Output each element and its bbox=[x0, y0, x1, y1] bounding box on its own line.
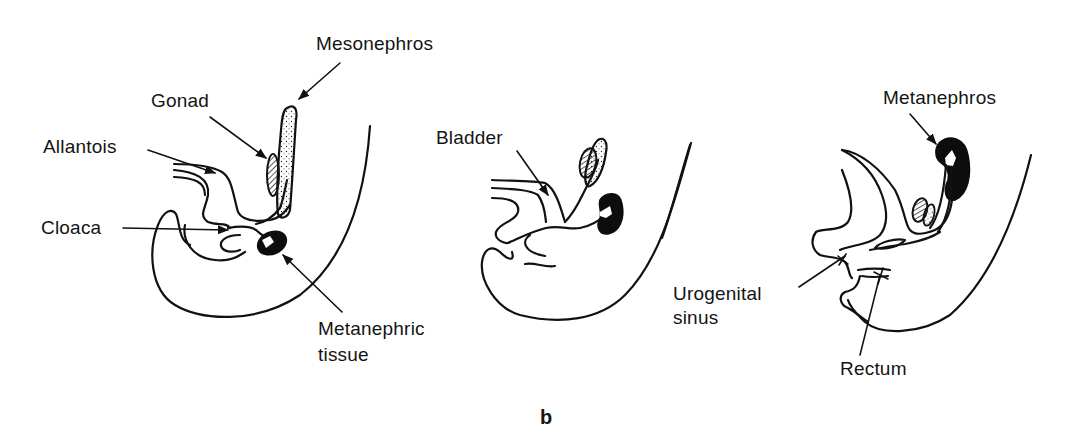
panel-3-rectum-top bbox=[858, 269, 890, 271]
panel-1-cloaca-inner bbox=[221, 235, 240, 252]
mesonephros-pointer bbox=[299, 63, 340, 99]
allantois-pointer bbox=[148, 150, 215, 173]
panel-2-gut-inner-1 bbox=[525, 235, 545, 256]
panel-2-gut bbox=[492, 198, 518, 243]
panel-1-allantois-lower bbox=[174, 177, 205, 195]
panel-1-mesonephros bbox=[277, 107, 296, 218]
panel-1-gonad bbox=[267, 154, 279, 196]
figure-caption: b bbox=[540, 406, 552, 429]
metanephric-tissue-pointer bbox=[283, 255, 342, 312]
label-bladder: Bladder bbox=[436, 127, 503, 149]
gonad-pointer bbox=[210, 117, 266, 158]
panel-3-bladder-outer bbox=[842, 150, 952, 234]
diagram-artwork bbox=[0, 0, 1069, 432]
panel-2-metanephros bbox=[598, 194, 623, 234]
label-metanephros: Metanephros bbox=[883, 87, 996, 109]
label-urogenital-sinus-line2: sinus bbox=[673, 307, 718, 329]
label-rectum: Rectum bbox=[840, 358, 907, 380]
panel-3-bladder-inner bbox=[840, 150, 886, 250]
label-metanephric-tissue-line1: Metanephric bbox=[318, 318, 425, 340]
panel-2-urogenital bbox=[510, 215, 605, 242]
bladder-pointer bbox=[517, 151, 548, 195]
label-cloaca: Cloaca bbox=[41, 217, 101, 239]
label-allantois: Allantois bbox=[43, 136, 117, 158]
panel-2-embryo bbox=[482, 139, 691, 320]
panel-2-gut-inner-2 bbox=[525, 264, 555, 267]
embryo-urogenital-diagram: Mesonephros Gonad Allantois Cloaca Metan… bbox=[0, 0, 1069, 432]
label-gonad: Gonad bbox=[151, 90, 209, 112]
label-metanephric-tissue-line2: tissue bbox=[318, 344, 369, 366]
rectum-pointer bbox=[860, 275, 880, 355]
label-mesonephros: Mesonephros bbox=[316, 33, 433, 55]
metanephros-pointer bbox=[910, 114, 936, 144]
cloaca-pointer bbox=[123, 228, 228, 230]
panel-2-allantois-lower bbox=[492, 188, 546, 222]
panel-2-allantois-upper bbox=[492, 180, 565, 222]
panel-3-left-limb bbox=[662, 145, 690, 238]
urogenital-sinus-pointer bbox=[799, 256, 845, 287]
label-urogenital-sinus-line1: Urogenital bbox=[673, 283, 762, 305]
